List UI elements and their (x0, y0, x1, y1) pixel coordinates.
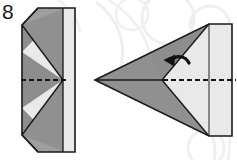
diagram-page: 8 (0, 0, 237, 160)
origami-diagram (0, 0, 237, 160)
left-figure (21, 8, 75, 152)
right-figure (95, 24, 236, 136)
step-number: 8 (2, 0, 14, 24)
